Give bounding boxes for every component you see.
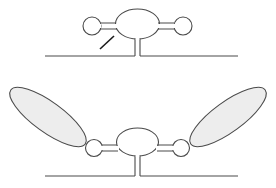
bottom-right-vesicle [173,140,190,157]
bottom-left-vesicle [86,140,103,157]
top-central-oval [116,9,160,39]
right-lobe [182,78,274,156]
arrow-icon [100,36,114,49]
bottom-structure [2,78,274,176]
top-structure [45,9,238,56]
diagram-canvas [0,0,276,188]
left-lobe [2,78,94,156]
top-stem [135,38,140,56]
top-right-vesicle [174,17,192,35]
bottom-central-oval [117,128,159,156]
top-left-vesicle [83,17,101,35]
bottom-stem [135,155,140,176]
